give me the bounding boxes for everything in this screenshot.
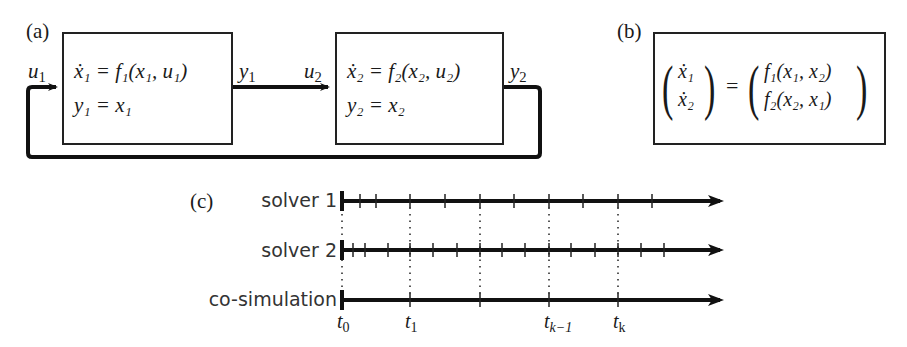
signal-u2-label: u2	[304, 59, 322, 86]
lhs-state-1: ẋ₁	[678, 60, 694, 83]
rhs-function-2: f₂(x₂, x₁)	[764, 88, 832, 111]
block1-output-equation: y₁ = x₁	[74, 93, 132, 118]
lhs-state-2: ẋ₂	[678, 88, 694, 111]
block-subsystem-1	[62, 32, 233, 145]
right-paren-open: (	[748, 56, 759, 118]
panel-b-label: (b)	[617, 19, 642, 44]
block1-state-equation: ẋ₁ = f₁(x₁, u₁)	[74, 59, 187, 84]
block-subsystem-2	[335, 32, 504, 145]
signal-y1-label: y1	[239, 59, 256, 86]
time-label-tk: tk	[613, 310, 626, 336]
timeline-axis-co-simulation	[342, 290, 724, 310]
left-paren-close: )	[704, 56, 715, 118]
rhs-function-1: f₁(x₁, x₂)	[764, 60, 832, 83]
time-label-tkminus1: tk−1	[544, 310, 572, 336]
row-label-solver-1: solver 1	[261, 189, 337, 211]
signal-u1-label: u1	[28, 59, 46, 86]
time-label-t0: t0	[337, 310, 350, 336]
block2-state-equation: ẋ₂ = f₂(x₂, u₂)	[347, 59, 460, 84]
right-paren-close: )	[856, 56, 867, 118]
left-paren-open: (	[662, 56, 673, 118]
time-label-t1: t1	[405, 310, 418, 336]
timeline-axis-solver-1	[342, 191, 724, 211]
panel-c-label: (c)	[190, 189, 213, 214]
row-label-co-simulation: co-simulation	[209, 288, 337, 310]
row-label-solver-2: solver 2	[261, 239, 337, 261]
equals-sign: =	[726, 73, 738, 99]
signal-y2-label: y2	[510, 59, 527, 86]
panel-a-label: (a)	[26, 19, 49, 44]
block2-output-equation: y₂ = x₂	[347, 93, 405, 118]
timeline-axis-solver-2	[342, 240, 724, 260]
